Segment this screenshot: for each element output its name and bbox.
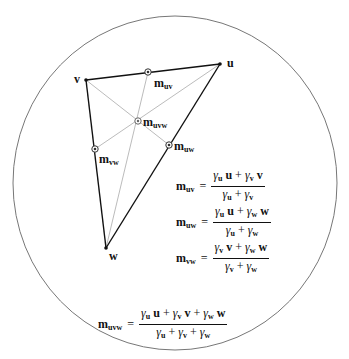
equals-sign: = <box>199 179 206 194</box>
equals-sign: = <box>201 215 208 230</box>
vertex-w-dot <box>104 246 108 250</box>
numerator: γu u + γv v <box>211 168 264 186</box>
vertex-label-w: w <box>109 250 118 262</box>
fraction: γu u + γw w γu + γw <box>213 204 271 241</box>
vertex-u-dot <box>218 62 222 66</box>
denominator: γu + γw <box>224 223 260 241</box>
equation-lhs: muvw <box>98 317 122 332</box>
numerator: γu u + γw w <box>213 204 271 222</box>
denominator: γv + γw <box>223 259 259 277</box>
denominator: γu + γv + γw <box>154 325 212 343</box>
point-label-muvw: muvw <box>143 116 167 130</box>
point-muv-marker <box>145 69 151 75</box>
fraction: γu u + γv v + γw w γu + γv + γw <box>139 306 227 343</box>
equation-muvw: muvw = γu u + γv v + γw w γu + γv + γw <box>98 306 227 343</box>
fraction: γv v + γw w γv + γw <box>213 240 270 277</box>
equation-muw: muw = γu u + γw w γu + γw <box>176 204 271 241</box>
equals-sign: = <box>201 251 208 266</box>
denominator: γu + γv <box>221 187 256 205</box>
point-label-muv: muv <box>154 77 172 91</box>
equation-lhs: mvw <box>176 251 196 266</box>
point-muw-marker <box>166 142 172 148</box>
fraction: γu u + γv v γu + γv <box>211 168 264 205</box>
point-label-muw: muw <box>174 140 194 154</box>
diagram-canvas: u v w muv muw mvw muvw muv = γu u + γv v… <box>0 0 349 359</box>
point-mvw-marker <box>92 146 98 152</box>
equals-sign: = <box>127 317 134 332</box>
vertex-label-u: u <box>227 57 234 69</box>
equation-muv: muv = γu u + γv v γu + γv <box>176 168 265 205</box>
equation-mvw: mvw = γv v + γw w γv + γw <box>176 240 269 277</box>
vertex-label-v: v <box>74 73 80 85</box>
numerator: γv v + γw w <box>213 240 270 258</box>
point-muvw-marker <box>135 118 141 124</box>
equation-lhs: muw <box>176 215 196 230</box>
point-label-mvw: mvw <box>99 153 119 167</box>
equation-lhs: muv <box>176 179 194 194</box>
vertex-v-dot <box>84 78 88 82</box>
numerator: γu u + γv v + γw w <box>139 306 227 324</box>
boundary-circle <box>13 16 337 350</box>
